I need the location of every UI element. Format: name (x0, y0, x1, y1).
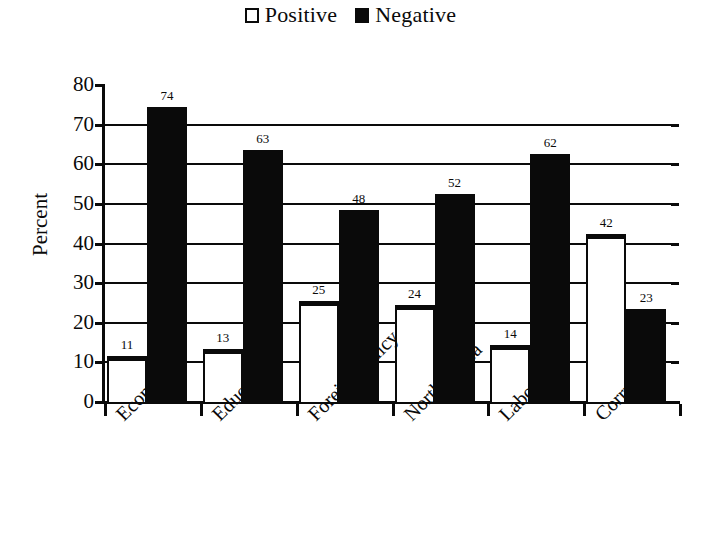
y-axis-tick-label: 20 (54, 312, 94, 333)
bar-value-label: 63 (256, 132, 269, 145)
y-axis-tick-label: 50 (54, 193, 94, 214)
filled-square-icon (355, 8, 369, 23)
x-axis-tick (104, 404, 107, 416)
y-axis-tick (95, 361, 104, 364)
bar-value-label: 14 (504, 327, 517, 340)
bar-value-label: 42 (600, 216, 613, 229)
y-axis-tick-label: 40 (54, 233, 94, 254)
chart-legend: Positive Negative (0, 4, 701, 26)
x-axis-tick (296, 404, 299, 416)
x-axis-tick (487, 404, 490, 416)
hollow-square-icon (245, 8, 259, 23)
y-axis-tick-labels: 01020304050607080 (48, 85, 94, 402)
plot-area: 117413632548245214624223 (104, 85, 679, 402)
legend-entry-negative: Negative (355, 4, 456, 26)
legend-label-positive: Positive (265, 4, 338, 26)
bar-value-label: 11 (121, 338, 134, 351)
bar-value-label: 25 (312, 283, 325, 296)
y-axis-tick-label: 0 (54, 391, 94, 412)
bar-group: 1363 (200, 85, 296, 402)
bar-group: 4223 (583, 85, 679, 402)
bar-negative: 62 (530, 156, 570, 402)
y-axis-tick (95, 401, 104, 404)
y-axis-tick-label: 70 (54, 114, 94, 135)
y-axis-tick-label: 60 (54, 153, 94, 174)
bar-value-label: 52 (448, 176, 461, 189)
bar-value-label: 23 (640, 291, 653, 304)
y-axis-tick (95, 163, 104, 166)
legend-label-negative: Negative (375, 4, 456, 26)
y-axis-tick-label: 30 (54, 272, 94, 293)
y-axis-tick (95, 124, 104, 127)
y-axis-tick (95, 84, 104, 87)
x-axis-tick (200, 404, 203, 416)
bar-value-label: 74 (161, 89, 174, 102)
bar-positive: 42 (586, 236, 626, 402)
bar-value-label: 48 (352, 192, 365, 205)
y-axis-tick (95, 322, 104, 325)
bar-value-label: 62 (544, 136, 557, 149)
bar-group: 1462 (487, 85, 583, 402)
legend-entry-positive: Positive (245, 4, 338, 26)
x-axis-tick (392, 404, 395, 416)
y-axis-tick (95, 243, 104, 246)
bar-value-label: 24 (408, 287, 421, 300)
bar-value-label: 13 (216, 331, 229, 344)
x-axis-tick (679, 404, 682, 416)
x-axis-tick (583, 404, 586, 416)
y-axis-tick-label: 10 (54, 351, 94, 372)
y-axis-tick (95, 282, 104, 285)
y-axis-tick (95, 203, 104, 206)
y-axis-tick-label: 80 (54, 74, 94, 95)
bar-group: 1174 (104, 85, 200, 402)
